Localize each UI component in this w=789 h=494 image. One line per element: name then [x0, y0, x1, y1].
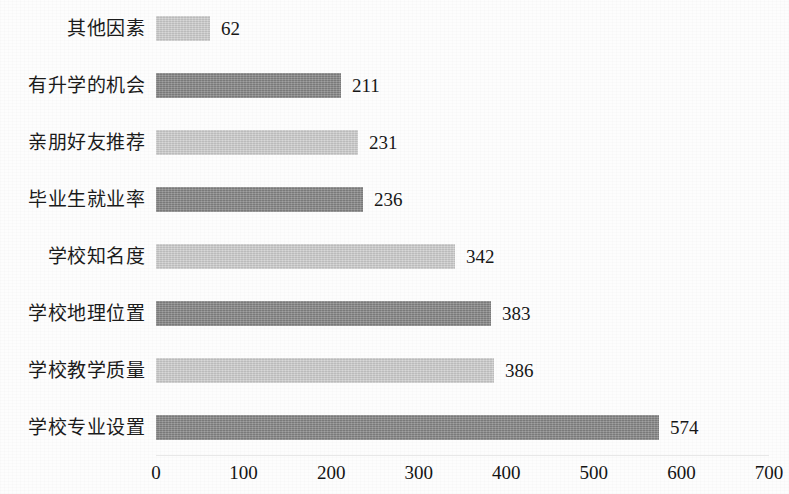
category-label: 毕业生就业率 — [0, 188, 145, 212]
bar — [156, 16, 210, 41]
bar-value-label: 62 — [221, 17, 240, 41]
x-tick-label: 100 — [229, 459, 258, 487]
bar-row: 学校知名度342 — [0, 228, 789, 285]
category-label: 学校知名度 — [0, 245, 145, 269]
bar-row: 学校专业设置574 — [0, 399, 789, 456]
bar-row: 学校教学质量386 — [0, 342, 789, 399]
bar-row: 其他因素62 — [0, 0, 789, 57]
bar-chart: 其他因素62有升学的机会211亲朋好友推荐231毕业生就业率236学校知名度34… — [0, 0, 789, 494]
x-tick-label: 400 — [492, 459, 521, 487]
bar-row: 有升学的机会211 — [0, 57, 789, 114]
bar-row: 学校地理位置383 — [0, 285, 789, 342]
x-tick-label: 500 — [580, 459, 609, 487]
x-axis-line — [156, 455, 769, 456]
category-label: 学校教学质量 — [0, 359, 145, 383]
x-tick-label: 700 — [755, 459, 784, 487]
category-label: 学校地理位置 — [0, 302, 145, 326]
x-tick-label: 200 — [317, 459, 346, 487]
bar-row: 亲朋好友推荐231 — [0, 114, 789, 171]
category-label: 学校专业设置 — [0, 416, 145, 440]
bar-value-label: 211 — [352, 74, 380, 98]
bar-value-label: 231 — [369, 131, 398, 155]
category-label: 亲朋好友推荐 — [0, 131, 145, 155]
x-tick-label: 0 — [151, 459, 161, 487]
bar — [156, 187, 363, 212]
bar-row: 毕业生就业率236 — [0, 171, 789, 228]
bar — [156, 130, 358, 155]
bar — [156, 415, 659, 440]
plot-area: 其他因素62有升学的机会211亲朋好友推荐231毕业生就业率236学校知名度34… — [0, 0, 789, 456]
category-label: 有升学的机会 — [0, 74, 145, 98]
bar-value-label: 383 — [502, 302, 531, 326]
x-tick-label: 600 — [667, 459, 696, 487]
x-axis-tick-labels: 0100200300400500600700 — [0, 459, 789, 494]
x-tick-label: 300 — [404, 459, 433, 487]
bar-value-label: 236 — [374, 188, 403, 212]
bar — [156, 244, 455, 269]
category-label: 其他因素 — [0, 17, 145, 41]
bar-value-label: 342 — [466, 245, 495, 269]
bar — [156, 73, 341, 98]
bar-value-label: 574 — [670, 416, 699, 440]
bar — [156, 358, 494, 383]
bar — [156, 301, 491, 326]
bar-value-label: 386 — [505, 359, 534, 383]
